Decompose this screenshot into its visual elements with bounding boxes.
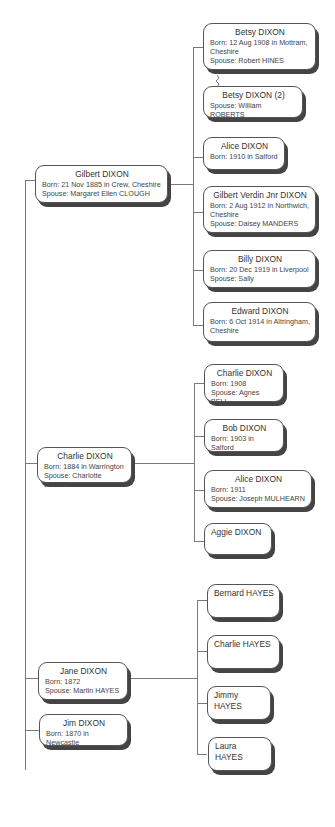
charlie-out-line [132, 463, 194, 464]
person-card-alice-dixon-2[interactable]: Alice DIXON Born: 1911 Spouse: Joseph MU… [204, 470, 312, 508]
person-card-betsy-dixon[interactable]: Betsy DIXON Born: 12 Aug 1908 in Mottram… [203, 23, 316, 70]
gilbert-children-trunk [193, 47, 194, 325]
person-details: Born: 1870 in Newcastle [46, 729, 122, 747]
person-details: Born: 21 Nov 1885 in Crew, Cheshire Spou… [42, 180, 162, 198]
person-name: Gilbert Verdin Jnr DIXON [210, 190, 310, 201]
person-name: Charlie DIXON [211, 368, 278, 379]
person-details: Born: 1908 Spouse: Agnes BELL [211, 379, 278, 406]
person-name: Edward DIXON [210, 306, 310, 317]
connector-alice-2 [194, 490, 204, 491]
connector-charlie-jr [194, 383, 204, 384]
person-details: Born: 1903 in Salford [211, 434, 278, 452]
person-details: Born: 1884 in Warrington Spouse: Charlot… [44, 462, 126, 489]
person-details: Born: 20 Dec 1919 in Liverpool Spouse: S… [210, 265, 310, 283]
person-name: Jimmy HAYES [214, 690, 265, 712]
connector-bernard [197, 600, 207, 601]
person-name: Betsy DIXON (2) [210, 90, 297, 101]
person-name: Gilbert DIXON [42, 169, 162, 180]
person-details: Born: 1911 Spouse: Joseph MULHEARN [211, 485, 306, 503]
person-name: Bob DIXON [211, 423, 278, 434]
connector-billy [193, 270, 203, 271]
main-trunk-line [25, 180, 26, 770]
connector-gilbert-jnr [193, 212, 203, 213]
person-card-jane-dixon[interactable]: Jane DIXON Born: 1872 Spouse: Martin HAY… [38, 662, 128, 700]
person-name: Alice DIXON [210, 141, 279, 152]
person-card-laura-hayes[interactable]: Laura HAYES [208, 737, 272, 771]
person-card-billy-dixon[interactable]: Billy DIXON Born: 20 Dec 1919 in Liverpo… [203, 250, 316, 288]
person-details: Born: 6 Oct 1914 in Altringham, Cheshire [210, 317, 310, 335]
person-name: Aggie DIXON [211, 527, 266, 538]
connector-jimmy [197, 703, 207, 704]
jane-out-line [128, 678, 197, 679]
person-name: Betsy DIXON [210, 27, 310, 38]
person-name: Jane DIXON [45, 666, 122, 677]
person-details: Born: 12 Aug 1908 in Mottram, Cheshire S… [210, 38, 310, 65]
person-card-gilbert-verdin-jnr-dixon[interactable]: Gilbert Verdin Jnr DIXON Born: 2 Aug 191… [203, 186, 316, 233]
person-card-bob-dixon[interactable]: Bob DIXON Born: 1903 in Salford [204, 419, 284, 452]
person-card-jimmy-hayes[interactable]: Jimmy HAYES [207, 686, 271, 720]
person-name: Charlie DIXON [44, 451, 126, 462]
person-card-alice-dixon[interactable]: Alice DIXON Born: 1910 in Salford [203, 137, 285, 170]
person-card-gilbert-dixon[interactable]: Gilbert DIXON Born: 21 Nov 1885 in Crew,… [35, 165, 168, 203]
connector-laura [197, 754, 207, 755]
person-details: Born: 1872 Spouse: Martin HAYES [45, 677, 122, 695]
person-details: Spouse: William ROBERTS [210, 101, 297, 119]
connector-charlie [25, 463, 37, 464]
person-name: Billy DIXON [210, 254, 310, 265]
person-name: Jim DIXON [46, 718, 122, 729]
person-card-charlie-dixon-jr[interactable]: Charlie DIXON Born: 1908 Spouse: Agnes B… [204, 364, 284, 402]
jane-children-trunk [197, 600, 198, 754]
person-name: Laura HAYES [215, 741, 266, 763]
person-details: Born: 2 Aug 1912 in Northwich, Cheshire … [210, 201, 310, 228]
connector-alice [193, 157, 203, 158]
person-card-bernard-hayes[interactable]: Bernard HAYES [207, 584, 280, 618]
connector-gilbert [25, 180, 35, 181]
person-name: Charlie HAYES [214, 639, 274, 650]
person-card-betsy-dixon-2[interactable]: Betsy DIXON (2) Spouse: William ROBERTS [203, 86, 303, 118]
person-card-charlie-hayes[interactable]: Charlie HAYES [207, 635, 280, 669]
person-details: Born: 1910 in Salford [210, 152, 279, 161]
gilbert-out-line [168, 184, 193, 185]
person-card-charlie-dixon[interactable]: Charlie DIXON Born: 1884 in Warrington S… [37, 447, 132, 483]
person-card-jim-dixon[interactable]: Jim DIXON Born: 1870 in Newcastle [39, 714, 128, 746]
person-name: Alice DIXON [211, 474, 306, 485]
person-name: Bernard HAYES [214, 588, 274, 599]
charlie-children-trunk [194, 383, 195, 541]
connector-edward [193, 325, 203, 326]
connector-aggie [194, 541, 204, 542]
person-card-edward-dixon[interactable]: Edward DIXON Born: 6 Oct 1914 in Altring… [203, 302, 316, 342]
connector-betsy [193, 47, 203, 48]
connector-bob [194, 436, 204, 437]
connector-jane [25, 678, 38, 679]
connector-charlie-hayes [197, 651, 207, 652]
person-card-aggie-dixon[interactable]: Aggie DIXON [204, 523, 272, 555]
connector-jim [25, 730, 39, 731]
